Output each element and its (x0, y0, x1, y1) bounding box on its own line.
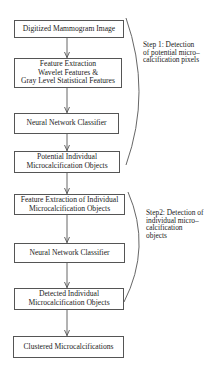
box-text: Gray Level Statistical Features (21, 77, 115, 86)
box-neural-network-1: Neural Network Classifier (14, 113, 119, 134)
box-text: Microcalcification Objects (28, 299, 109, 308)
arrow-7 (65, 309, 70, 336)
box-text: Microcalcification Objects (26, 162, 107, 171)
box-clustered: Clustered Microcalcifications (13, 336, 124, 358)
box-potential-objects: Potential Individual Microcalcification … (14, 151, 120, 173)
arrow-3 (65, 133, 70, 151)
box-text: Neural Network Classifier (26, 119, 106, 128)
step2-bracket (124, 192, 139, 302)
arrow-2 (65, 87, 70, 113)
step-text: objects (146, 232, 203, 240)
box-text: Clustered Microcalcifications (23, 343, 113, 352)
box-feature-extraction: Feature Extraction Wavelet Features & Gr… (14, 58, 122, 88)
arrow-5 (65, 214, 70, 243)
arrow-1 (65, 37, 70, 58)
box-text: Neural Network Classifier (29, 249, 109, 258)
arrow-6 (65, 262, 70, 288)
step1-label: Step 1: Detection of potential micro– ca… (143, 41, 200, 64)
box-text: Microcalcification Objects (29, 205, 110, 214)
box-neural-network-2: Neural Network Classifier (14, 243, 125, 263)
box-digitized-mammogram: Digitized Mammogram Image (14, 20, 124, 38)
step2-label: Step2: Detection of individual micro– ca… (146, 209, 203, 239)
step-text: calcification pixels (143, 56, 200, 64)
step1-bracket (126, 18, 139, 165)
box-text: Digitized Mammogram Image (23, 25, 115, 34)
box-detected-objects: Detected Individual Microcalcification O… (14, 288, 124, 310)
arrow-4 (65, 172, 70, 194)
box-feature-extraction-objects: Feature Extraction of Individual Microca… (14, 194, 125, 215)
